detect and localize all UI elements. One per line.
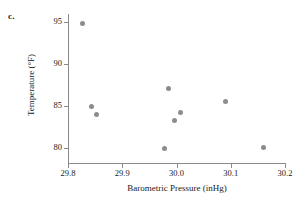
y-tick-label: 95: [38, 17, 62, 27]
scatter-plot-figure: c. 80859095 29.829.930.030.130.2 Baromet…: [0, 0, 306, 210]
y-tick-label: 90: [38, 59, 62, 69]
x-tick-label-text: 30.2: [265, 169, 305, 178]
x-axis-title: Barometric Pressure (inHg): [68, 183, 286, 193]
y-axis-title: Temperature (°F): [26, 25, 36, 145]
x-tick-label: 29.9: [102, 169, 142, 178]
x-tick-label-text: 29.9: [102, 169, 142, 178]
y-tick-label: 85: [38, 101, 62, 111]
x-tick-label: 29.8: [48, 169, 88, 178]
panel-letter: c.: [8, 11, 15, 21]
x-tick-label: 30.1: [211, 169, 251, 178]
x-tick-label-text: 30.0: [157, 169, 197, 178]
x-tick-label: 30.0: [157, 169, 197, 178]
plot-data-area: [68, 14, 285, 163]
data-point: [162, 146, 167, 151]
y-tick-label: 80: [38, 143, 62, 153]
y-tick-label-text: 95: [40, 17, 62, 26]
y-tick-label-text: 90: [40, 59, 62, 68]
x-tick-label-text: 29.8: [48, 169, 88, 178]
data-point: [80, 21, 85, 26]
y-tick-label-text: 85: [40, 101, 62, 110]
x-tick-label: 30.2: [265, 169, 305, 178]
y-tick-label-text: 80: [40, 143, 62, 152]
x-tick-label-text: 30.1: [211, 169, 251, 178]
